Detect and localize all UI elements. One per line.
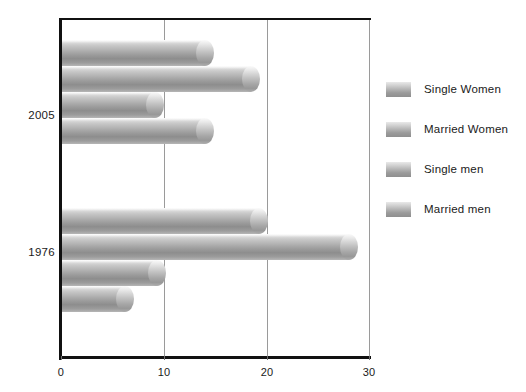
- legend-item-single-men: Single men: [386, 160, 518, 186]
- bar-highlight: [61, 92, 155, 95]
- tick-mark-10: [164, 356, 165, 360]
- x-axis: [59, 356, 371, 359]
- bar-2005-married-women: [61, 66, 251, 92]
- bar-cap: [196, 40, 214, 66]
- bar-highlight: [61, 66, 251, 69]
- legend-swatch-icon: [386, 202, 411, 217]
- legend-label: Married Women: [424, 120, 508, 139]
- legend-swatch-icon: [386, 162, 411, 177]
- bar-highlight: [61, 118, 205, 121]
- legend-label: Single Women: [424, 80, 501, 99]
- bar-1976-married-men: [61, 286, 125, 312]
- bar-cap: [250, 208, 268, 234]
- x-tick-label-20: 20: [247, 366, 287, 378]
- bar-cap: [148, 260, 166, 286]
- legend-item-married-men: Married men: [386, 200, 518, 226]
- bar-1976-single-men: [61, 260, 157, 286]
- bar-2005-single-women: [61, 40, 205, 66]
- bar-cap: [242, 66, 260, 92]
- x-tick-label-30: 30: [349, 366, 389, 378]
- bar-highlight: [61, 234, 349, 237]
- legend-item-married-women: Married Women: [386, 120, 518, 146]
- legend-swatch-icon: [386, 122, 411, 137]
- gridline-30: [369, 20, 370, 358]
- legend-item-single-women: Single Women: [386, 80, 518, 106]
- bar-highlight: [61, 40, 205, 43]
- bar-cap: [116, 286, 134, 312]
- legend-label: Married men: [424, 200, 491, 219]
- group-label-1976: 1976: [0, 246, 55, 258]
- plot-area: [61, 20, 369, 358]
- bar-highlight: [61, 286, 125, 289]
- y-axis: [59, 18, 62, 360]
- bar-cap: [146, 92, 164, 118]
- legend-swatch-icon: [386, 82, 411, 97]
- bar-1976-single-women: [61, 208, 259, 234]
- bar-2005-married-men: [61, 118, 205, 144]
- tick-mark-30: [369, 356, 370, 360]
- legend: Single Women Married Women Single men Ma…: [386, 80, 518, 240]
- legend-label: Single men: [424, 160, 484, 179]
- bar-highlight: [61, 208, 259, 211]
- bar-chart: 0 10 20 30 2005 1976 Single Women Marrie…: [0, 0, 526, 392]
- bar-cap: [340, 234, 358, 260]
- bar-1976-married-women: [61, 234, 349, 260]
- bar-cap: [196, 118, 214, 144]
- x-tick-label-10: 10: [144, 366, 184, 378]
- bar-highlight: [61, 260, 157, 263]
- tick-mark-0: [61, 356, 62, 360]
- plot-top-border: [59, 18, 371, 20]
- group-label-2005: 2005: [0, 109, 55, 121]
- tick-mark-20: [267, 356, 268, 360]
- bar-2005-single-men: [61, 92, 155, 118]
- x-tick-label-0: 0: [41, 366, 81, 378]
